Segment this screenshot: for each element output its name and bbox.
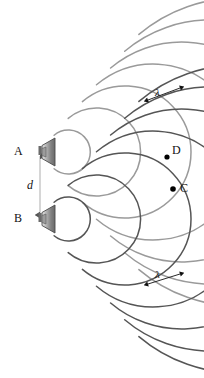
label-point-c: C <box>180 182 188 194</box>
wavefront-group-source-b <box>54 65 204 373</box>
point-markers <box>164 154 175 191</box>
interference-diagram: A B d C D λ λ <box>0 0 204 378</box>
wavefront-b-3 <box>82 153 191 285</box>
point-marker-c <box>170 186 176 192</box>
label-source-b: B <box>14 212 22 224</box>
wavefront-b-7 <box>139 65 204 373</box>
wavefront-b-1 <box>54 197 90 241</box>
speaker-b-stand <box>39 213 42 222</box>
speaker-a <box>39 138 56 166</box>
label-wavelength-upper: λ <box>155 87 160 98</box>
speaker-b-throat <box>42 214 46 224</box>
wavefront-a-6 <box>125 20 204 284</box>
label-wavelength-lower: λ <box>155 269 160 280</box>
speaker-a-throat <box>42 147 46 157</box>
speaker-b <box>39 205 56 233</box>
point-marker-d <box>164 154 169 159</box>
label-point-d: D <box>172 144 181 156</box>
speaker-a-stand <box>39 146 42 155</box>
wavefront-b-6 <box>125 87 204 351</box>
label-source-a: A <box>14 145 23 157</box>
label-separation-d: d <box>27 179 33 191</box>
